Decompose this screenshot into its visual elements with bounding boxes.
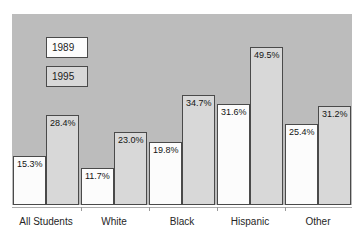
bar-1989-all-students: 15.3% <box>13 156 46 205</box>
bar-1995-all-students: 28.4% <box>46 115 79 205</box>
x-axis-tick <box>285 207 286 211</box>
x-axis-tick <box>217 207 218 211</box>
bar-1995-black: 34.7% <box>182 95 215 205</box>
bar-value-label-1989-all-students: 15.3% <box>17 159 43 169</box>
bar-1989-other: 25.4% <box>285 124 318 205</box>
bar-value-label-1989-black: 19.8% <box>153 145 179 155</box>
bar-value-label-1989-white: 11.7% <box>85 171 110 181</box>
bar-1995-other: 31.2% <box>318 106 351 205</box>
bar-value-label-1995-hispanic: 49.5% <box>254 50 280 60</box>
bar-1995-white: 23.0% <box>114 132 147 205</box>
legend-label-1989: 1989 <box>52 42 74 53</box>
legend-label-1995: 1995 <box>52 71 74 82</box>
bar-chart-figure: 1989 and 1995 1989 1995 15.3%28.4%11.7%2… <box>0 0 361 237</box>
bar-value-label-1989-hispanic: 31.6% <box>221 107 247 117</box>
bar-value-label-1995-black: 34.7% <box>186 98 212 108</box>
bar-value-label-1995-all-students: 28.4% <box>50 118 76 128</box>
category-label-other: Other <box>278 216 358 227</box>
bar-value-label-1989-other: 25.4% <box>289 127 315 137</box>
x-axis-line <box>12 207 352 208</box>
legend-item-1989: 1989 <box>46 37 88 58</box>
legend-item-1995: 1995 <box>46 66 88 87</box>
bar-1989-white: 11.7% <box>81 168 114 205</box>
chart-title-text: 1989 and 1995 <box>139 3 223 5</box>
x-axis-tick <box>81 207 82 211</box>
bar-value-label-1995-white: 23.0% <box>118 135 144 145</box>
x-axis-tick <box>149 207 150 211</box>
bar-value-label-1995-other: 31.2% <box>322 109 348 119</box>
bar-1989-black: 19.8% <box>149 142 182 205</box>
chart-title-clipped: 1989 and 1995 <box>0 0 361 5</box>
bar-1995-hispanic: 49.5% <box>250 47 283 205</box>
bar-1989-hispanic: 31.6% <box>217 104 250 205</box>
